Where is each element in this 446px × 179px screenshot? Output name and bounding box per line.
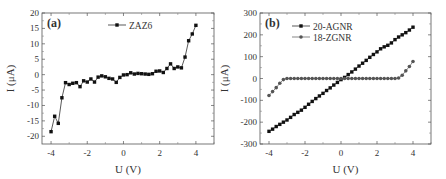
data-point: [75, 81, 78, 84]
data-point: [49, 130, 52, 133]
data-point: [408, 65, 412, 69]
data-point: [194, 24, 197, 27]
y-tick-label: 20: [30, 8, 40, 18]
series-zaz6: [49, 24, 197, 134]
data-point: [187, 39, 190, 42]
data-point: [296, 77, 300, 81]
x-tick-label: -4: [47, 148, 55, 158]
data-point: [383, 45, 386, 48]
data-point: [311, 100, 314, 103]
data-point: [314, 77, 318, 81]
data-point: [372, 77, 376, 81]
legend-item: ZAZ6: [108, 21, 152, 31]
y-axis: -20-15-10-505101520I (μA): [4, 8, 214, 141]
data-point: [129, 71, 132, 74]
data-point: [118, 76, 121, 79]
data-point: [404, 69, 408, 73]
data-point: [346, 77, 350, 81]
y-tick-label: 0: [35, 70, 40, 80]
data-point: [393, 38, 396, 41]
data-point: [332, 77, 336, 81]
data-point: [86, 80, 89, 83]
data-point: [361, 77, 365, 81]
data-point: [336, 77, 340, 81]
data-point: [300, 77, 304, 81]
data-point: [411, 60, 415, 64]
data-point: [147, 73, 150, 76]
x-axis: -4-2024U (V): [47, 13, 214, 176]
y-tick-label: 300: [244, 8, 258, 18]
x-tick-label: -2: [301, 148, 309, 158]
y-tick-label: -15: [27, 116, 39, 126]
plot-frame: [42, 13, 214, 144]
data-point: [282, 78, 286, 82]
data-point: [67, 83, 70, 86]
data-point: [350, 70, 353, 73]
data-point: [397, 35, 400, 38]
data-point: [165, 67, 168, 70]
panel-a-chart: -4-2024U (V)-20-15-10-505101520I (μA)(a)…: [4, 8, 214, 176]
data-point: [318, 77, 322, 81]
data-point: [329, 86, 332, 89]
x-tick-label: -4: [265, 148, 273, 158]
x-axis-title: U (V): [333, 163, 359, 176]
data-point: [332, 83, 335, 86]
data-point: [100, 74, 103, 77]
data-point: [343, 77, 347, 81]
data-point: [339, 77, 343, 81]
y-tick-label: -200: [241, 117, 258, 127]
data-point: [397, 76, 401, 80]
data-point: [282, 120, 285, 123]
x-tick-label: 2: [157, 148, 162, 158]
y-axis-title: I (μA): [4, 64, 17, 92]
data-point: [136, 72, 139, 75]
y-tick-label: 200: [244, 30, 258, 40]
y-axis-title: I (μA): [218, 64, 231, 92]
data-point: [382, 77, 386, 81]
legend-label: ZAZ6: [129, 21, 152, 31]
data-point: [158, 69, 161, 72]
data-point: [115, 81, 118, 84]
panel-label: (b): [265, 16, 280, 30]
data-point: [292, 77, 296, 81]
x-tick-label: 2: [375, 148, 380, 158]
data-point: [401, 33, 404, 36]
data-point: [321, 77, 325, 81]
data-point: [411, 25, 414, 28]
data-point: [275, 125, 278, 128]
data-point: [271, 127, 274, 130]
data-point: [104, 75, 107, 78]
x-tick-label: -2: [84, 148, 92, 158]
data-point: [361, 62, 364, 65]
data-point: [296, 111, 299, 114]
data-point: [53, 115, 56, 118]
data-point: [310, 77, 314, 81]
data-point: [125, 73, 128, 76]
data-point: [393, 77, 397, 81]
data-point: [78, 85, 81, 88]
data-point: [325, 77, 329, 81]
data-point: [379, 47, 382, 50]
data-point: [278, 82, 282, 86]
data-point: [386, 77, 390, 81]
data-point: [368, 56, 371, 59]
x-tick-label: 4: [411, 148, 416, 158]
data-point: [325, 89, 328, 92]
series-18-zgnr: [267, 60, 415, 98]
data-point: [354, 67, 357, 70]
x-tick-label: 0: [121, 148, 126, 158]
data-point: [151, 72, 154, 75]
x-tick-label: 4: [194, 148, 199, 158]
data-point: [400, 73, 404, 77]
legend-label: 20-AGNR: [313, 22, 353, 32]
data-point: [375, 50, 378, 53]
data-point: [96, 75, 99, 78]
data-point: [191, 32, 194, 35]
data-point: [271, 90, 275, 94]
y-tick-label: -300: [241, 139, 258, 149]
data-point: [140, 72, 143, 75]
figure: -4-2024U (V)-20-15-10-505101520I (μA)(a)…: [0, 0, 446, 179]
data-point: [372, 53, 375, 56]
panel-label: (a): [47, 16, 61, 30]
data-point: [60, 96, 63, 99]
